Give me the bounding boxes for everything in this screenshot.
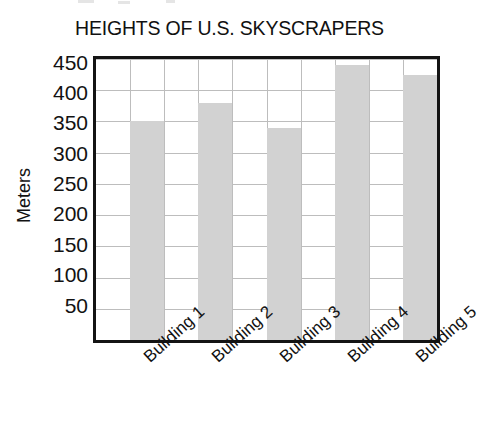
bar [335, 65, 369, 340]
gridline-vertical [301, 59, 302, 340]
scan-artifact [118, 1, 130, 4]
bar [130, 121, 164, 340]
plot-area [93, 56, 440, 343]
bar [403, 75, 437, 340]
bar [198, 103, 232, 340]
y-axis-tick-label: 450 [2, 52, 88, 73]
plot-inner [96, 59, 437, 340]
y-axis-tick-label: 350 [2, 112, 88, 133]
gridline-vertical [164, 59, 165, 340]
y-axis-title: Meters [14, 136, 35, 256]
bar [267, 128, 301, 340]
y-axis-tick-label: 50 [2, 295, 88, 316]
gridline-vertical [232, 59, 233, 340]
y-axis-tick-label: 400 [2, 82, 88, 103]
y-axis-tick-label: 100 [2, 264, 88, 285]
gridline-vertical [369, 59, 370, 340]
scan-artifact [166, 0, 175, 3]
